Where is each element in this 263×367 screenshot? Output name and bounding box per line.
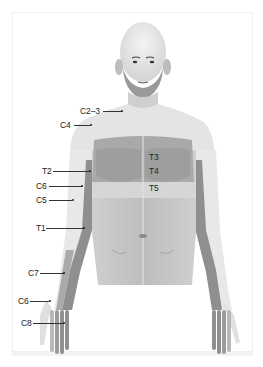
label-c8: C8 bbox=[21, 318, 32, 328]
label-t3: T3 bbox=[149, 152, 159, 162]
label-c7: C7 bbox=[28, 268, 39, 278]
head bbox=[115, 22, 171, 100]
marker-c6-arm bbox=[81, 185, 83, 187]
marker-c5 bbox=[72, 199, 74, 201]
marker-c6-hand bbox=[49, 300, 51, 302]
leader-c2-3 bbox=[103, 111, 122, 112]
right-arm bbox=[196, 150, 240, 354]
label-c2-3: C2–3 bbox=[80, 106, 100, 116]
label-t5: T5 bbox=[149, 183, 159, 193]
marker-t2 bbox=[89, 170, 91, 172]
leader-c4 bbox=[74, 125, 90, 126]
marker-c7 bbox=[63, 272, 65, 274]
label-c6-arm: C6 bbox=[36, 181, 47, 191]
label-t2: T2 bbox=[42, 166, 52, 176]
label-t4: T4 bbox=[149, 166, 159, 176]
marker-t1 bbox=[83, 227, 85, 229]
leader-c6-hand bbox=[30, 301, 49, 302]
marker-c8 bbox=[63, 322, 65, 324]
leader-t1 bbox=[46, 228, 84, 229]
label-c6-hand: C6 bbox=[18, 296, 29, 306]
leader-c7 bbox=[40, 273, 64, 274]
label-t1: T1 bbox=[36, 223, 46, 233]
marker-c2-3 bbox=[121, 110, 123, 112]
leader-c8 bbox=[33, 323, 63, 324]
leader-c6-arm bbox=[49, 186, 82, 187]
label-c5: C5 bbox=[36, 195, 47, 205]
marker-c4 bbox=[90, 124, 92, 126]
leader-c5 bbox=[49, 200, 72, 201]
leader-t2 bbox=[53, 171, 90, 172]
label-c4: C4 bbox=[60, 120, 71, 130]
